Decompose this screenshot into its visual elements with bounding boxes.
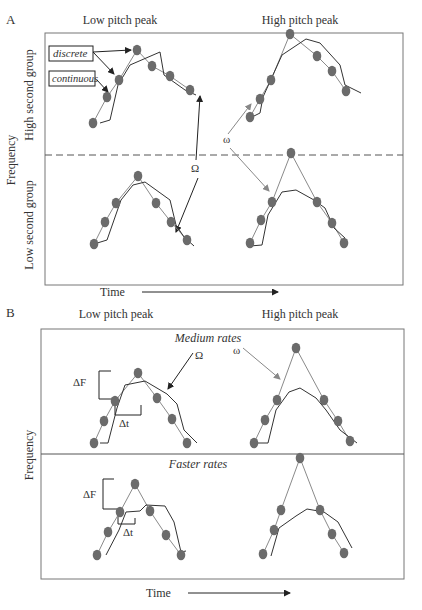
discrete-dot [286, 29, 295, 40]
panel-b-row-medium: Medium rates [174, 331, 242, 345]
discrete-dot [257, 215, 266, 226]
delta-f-label: ΔF [73, 376, 86, 388]
b-fast-high-discrete-line [263, 458, 344, 554]
discrete-dot [104, 527, 113, 538]
panel-b-omega-lower: ω [233, 344, 240, 356]
panel-a-frame [45, 33, 403, 285]
discrete-dot [340, 548, 349, 559]
discrete-dot [162, 530, 171, 541]
discrete-dot [134, 368, 143, 379]
discrete-dot [134, 171, 143, 182]
discrete-dot [166, 71, 175, 82]
discrete-dot [340, 238, 349, 249]
discrete-dot [267, 75, 276, 86]
discrete-dot [153, 393, 162, 404]
discrete-dot [146, 506, 155, 517]
discrete-dot [167, 217, 176, 228]
discrete-dot [186, 85, 195, 96]
discrete-dot [296, 453, 305, 464]
discrete-dot [256, 94, 265, 105]
omega-arrow [168, 353, 193, 389]
callout-arrow [93, 50, 131, 52]
discrete-dot [116, 507, 125, 518]
discrete-dot [89, 118, 98, 129]
discrete-dot [259, 549, 268, 560]
omega-lower-arrow [230, 148, 269, 191]
discrete-dot [342, 86, 351, 97]
callout-continuous: continuous [52, 73, 98, 84]
discrete-dot [346, 436, 355, 447]
panel-a-row-high: High second group [22, 49, 36, 140]
panel-a-omega-lower: ω [223, 133, 230, 145]
callout-arrow [93, 52, 114, 74]
delta-f-label: ΔF [83, 488, 96, 500]
discrete-dot [111, 396, 120, 407]
discrete-dot [287, 148, 296, 159]
discrete-dot [100, 416, 109, 427]
discrete-dot [292, 343, 301, 354]
panel-b-y-axis-label: Frequency [22, 430, 36, 481]
figure: A Low pitch peak High pitch peak Frequen… [0, 0, 422, 610]
discrete-dot [320, 395, 329, 406]
panel-b-letter: B [6, 305, 15, 320]
panel-b-col-low: Low pitch peak [79, 307, 154, 321]
callout-arrow [97, 80, 108, 92]
discrete-dot [131, 479, 140, 490]
omega-arrow [196, 96, 200, 160]
discrete-dot [115, 75, 124, 86]
panel-b-col-high: High pitch peak [262, 307, 339, 321]
omega-arrow [176, 178, 198, 232]
discrete-dot [313, 197, 322, 208]
delta-t-bracket [115, 405, 141, 415]
discrete-dot [101, 217, 110, 228]
a-high-low-continuous-line [100, 52, 196, 123]
panel-a-y-axis-label: Frequency [4, 135, 18, 186]
discrete-dot [103, 92, 112, 103]
a-low-low-continuous-line [94, 182, 194, 246]
a-low-high-discrete-line [250, 153, 344, 243]
callout-discrete: discrete [53, 47, 88, 59]
discrete-dot [133, 45, 142, 56]
discrete-dot [261, 415, 270, 426]
panel-a-col-high: High pitch peak [262, 13, 339, 27]
discrete-dot [177, 550, 186, 561]
a-low-low-discrete-line [94, 176, 187, 244]
discrete-dot [246, 112, 255, 123]
discrete-dot [270, 525, 279, 536]
discrete-dot [90, 438, 99, 449]
panel-b-x-axis-label: Time [146, 586, 171, 600]
panel-a-letter: A [6, 12, 16, 27]
discrete-dot [313, 51, 322, 62]
discrete-dot [246, 238, 255, 249]
panel-a-omega-upper: Ω [191, 162, 199, 174]
b-med-high-continuous-line [256, 388, 357, 443]
delta-t-label: Δt [119, 417, 129, 429]
panel-a-x-axis-label: Time [100, 285, 125, 299]
delta-f-bracket [99, 371, 112, 399]
delta-f-bracket [103, 479, 117, 509]
discrete-dot [277, 505, 286, 516]
a-high-low-discrete-line [93, 50, 190, 123]
panel-b-row-faster: Faster rates [168, 457, 228, 471]
b-fast-high-continuous-line [271, 509, 352, 556]
discrete-dot [183, 235, 192, 246]
discrete-dot [148, 61, 157, 72]
b-med-high-discrete-line [254, 348, 350, 443]
discrete-dot [334, 416, 343, 427]
discrete-dot [273, 395, 282, 406]
b-fast-low-discrete-line [97, 484, 181, 555]
discrete-dot [328, 529, 337, 540]
omega-lower-arrow [243, 348, 280, 379]
discrete-dot [183, 438, 192, 449]
discrete-dot [168, 414, 177, 425]
discrete-dot [316, 505, 325, 516]
panel-a-row-low: Low second group [22, 180, 36, 269]
discrete-dot [90, 239, 99, 250]
discrete-dot [268, 197, 277, 208]
discrete-dot [93, 550, 102, 561]
discrete-dot [112, 198, 121, 209]
discrete-dot [250, 438, 259, 449]
panel-b-omega-upper: Ω [195, 349, 203, 361]
discrete-dot [328, 218, 337, 229]
delta-t-label: Δt [123, 526, 133, 538]
